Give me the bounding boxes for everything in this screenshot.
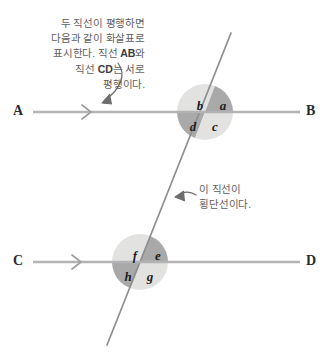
note-parallel-line-3-c: 와 [135,47,145,59]
angle-label-d: d [186,120,200,133]
note-parallel-line-3-a: 표시한다. 직선 [53,47,120,59]
note-parallel-line-3: 표시한다. 직선 AB와 [12,46,145,61]
note-parallel-line-1: 두 직선이 평행하면 [12,16,145,31]
endpoint-label-d: D [306,254,316,268]
angle-label-h: h [121,270,135,283]
note-transversal: 이 직선이 횡단선이다. [199,182,251,212]
angle-label-c: c [208,120,222,133]
angle-label-g: g [143,270,157,283]
endpoint-label-c: C [13,254,23,268]
note-parallel-line-4-b: CD [98,63,113,75]
note-parallel-line-4: 직선 CD는 서로 [12,62,145,77]
callout-arrow-transversal-head [175,191,185,201]
note-parallel-line-2: 다음과 같이 화살표로 [12,31,145,46]
angle-label-f: f [128,249,142,262]
angle-label-e: e [151,249,165,262]
note-parallel-line-4-a: 직선 [75,63,97,75]
endpoint-label-a: A [13,104,23,118]
note-parallel-line-4-c: 는 서로 [113,63,145,75]
note-parallel-lines: 두 직선이 평행하면 다음과 같이 화살표로 표시한다. 직선 AB와 직선 C… [12,16,145,92]
note-parallel-line-3-b: AB [120,47,135,59]
note-parallel-line-5: 평행이다. [12,77,145,92]
angle-label-b: b [193,99,207,112]
note-transversal-line-2: 횡단선이다. [199,197,251,212]
note-transversal-line-1: 이 직선이 [199,182,251,197]
endpoint-label-b: B [306,104,315,118]
figure-canvas: 두 직선이 평행하면 다음과 같이 화살표로 표시한다. 직선 AB와 직선 C… [0,0,333,359]
angle-label-a: a [216,99,230,112]
